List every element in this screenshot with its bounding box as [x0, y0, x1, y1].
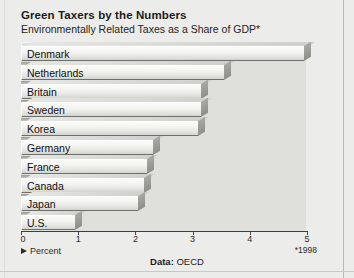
bar-body: Sweden: [21, 102, 201, 117]
bar-end-face: [224, 60, 231, 79]
bar-body: U.S.: [21, 215, 75, 230]
bar-item: Korea: [21, 121, 206, 137]
bar-body: Netherlands: [21, 65, 224, 80]
bar-item: Sweden: [21, 102, 209, 118]
bar-body: Britain: [21, 84, 201, 99]
bar-item: Netherlands: [21, 65, 232, 81]
bar-body: Denmark: [21, 46, 304, 61]
bar-item: Japan: [21, 196, 146, 212]
bar-category-label: Korea: [27, 123, 55, 135]
bar-end-face: [138, 192, 145, 211]
plot-area: DenmarkNetherlandsBritainSwedenKoreaGerm…: [21, 42, 306, 231]
bar-body: Canada: [21, 178, 144, 193]
x-axis-tick-label: 0: [20, 234, 25, 244]
bar-end-face: [198, 117, 205, 136]
bar-category-label: Netherlands: [27, 67, 84, 79]
bar-body: France: [21, 159, 147, 174]
bar-end-face: [153, 136, 160, 155]
axis-unit-legend: Percent: [21, 246, 61, 256]
bar-category-label: U.S.: [27, 217, 47, 229]
bar-category-label: Japan: [27, 198, 56, 210]
bar-category-label: Britain: [27, 86, 57, 98]
chart-page: Green Taxers by the Numbers Environmenta…: [0, 0, 354, 278]
bar-category-label: Germany: [27, 142, 70, 154]
bar-body: Germany: [21, 140, 153, 155]
chart-subtitle: Environmentally Related Taxes as a Share…: [21, 23, 260, 35]
page-right-border: [343, 0, 344, 278]
bar-end-face: [201, 79, 208, 98]
bar-item: France: [21, 159, 155, 175]
bar-end-face: [201, 98, 208, 117]
bar-body: Japan: [21, 196, 138, 211]
triangle-right-icon: [21, 248, 27, 254]
page-left-border: [4, 0, 5, 278]
bar-end-face: [144, 173, 151, 192]
source-prefix: Data:: [150, 256, 174, 267]
x-axis-tick-label: 5: [304, 234, 309, 244]
bar-item: Denmark: [21, 46, 312, 62]
bar-category-label: Denmark: [27, 48, 70, 60]
axis-unit-label: Percent: [30, 246, 61, 256]
source-credit: Data: OECD: [0, 256, 354, 267]
page-bottom-border: [0, 271, 354, 272]
bar-body: Korea: [21, 121, 198, 136]
source-value: OECD: [176, 256, 203, 267]
footnote: *1998: [295, 245, 317, 255]
bar-category-label: France: [27, 161, 60, 173]
bar-end-face: [304, 42, 311, 61]
x-axis-tick-label: 1: [76, 234, 81, 244]
chart-title: Green Taxers by the Numbers: [21, 9, 186, 21]
bar-end-face: [147, 154, 154, 173]
bar-category-label: Sweden: [27, 104, 65, 116]
x-axis-line: [21, 231, 308, 232]
x-axis-tick-label: 2: [133, 234, 138, 244]
x-axis-tick-label: 3: [190, 234, 195, 244]
bar-category-label: Canada: [27, 180, 64, 192]
bar-end-face: [75, 211, 82, 230]
x-axis-tick-label: 4: [247, 234, 252, 244]
bar-item: Germany: [21, 140, 161, 156]
bar-item: U.S.: [21, 215, 83, 231]
